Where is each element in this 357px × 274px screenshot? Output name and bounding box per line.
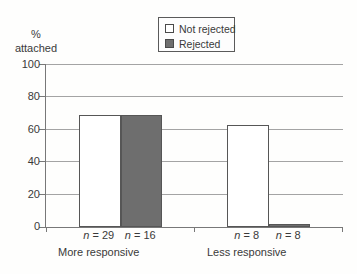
x-tick-mark-0 xyxy=(46,227,47,232)
plot-area xyxy=(45,65,343,228)
n-label-rejected-more-responsive: n = 16 xyxy=(114,229,166,241)
n-label-rejected-less-responsive: n = 8 xyxy=(262,229,314,241)
gridline-100 xyxy=(46,64,343,65)
gridline-80 xyxy=(46,96,343,97)
y-tick-label-100: 100 xyxy=(6,58,40,70)
legend-item-not-rejected: Not rejected xyxy=(165,21,234,36)
y-tick-label-60: 60 xyxy=(6,123,40,135)
y-axis-title-line2: attached xyxy=(8,41,64,55)
category-label-more-responsive: More responsive xyxy=(34,246,164,258)
bar-rejected-less-responsive xyxy=(269,224,311,227)
y-tick-label-20: 20 xyxy=(6,188,40,200)
legend-swatch-not-rejected xyxy=(165,24,174,33)
y-tick-mark-40 xyxy=(39,161,46,162)
y-axis-title-line1: % xyxy=(8,27,64,41)
bar-chart-figure: % attached Not rejectedRejected 02040608… xyxy=(0,0,357,274)
y-tick-label-0: 0 xyxy=(6,220,40,232)
category-label-less-responsive: Less responsive xyxy=(182,246,312,258)
legend: Not rejectedRejected xyxy=(158,17,235,52)
legend-label-rejected: Rejected xyxy=(179,38,220,50)
y-tick-label-80: 80 xyxy=(6,90,40,102)
y-tick-mark-60 xyxy=(39,129,46,130)
y-tick-label-40: 40 xyxy=(6,155,40,167)
y-tick-mark-20 xyxy=(39,194,46,195)
bar-not-rejected-less-responsive xyxy=(227,125,269,227)
y-tick-mark-100 xyxy=(39,64,46,65)
y-tick-mark-0 xyxy=(39,227,46,228)
legend-label-not-rejected: Not rejected xyxy=(179,23,236,35)
bar-not-rejected-more-responsive xyxy=(79,115,121,227)
legend-item-rejected: Rejected xyxy=(165,36,234,51)
x-tick-mark-1 xyxy=(194,227,195,232)
y-tick-mark-80 xyxy=(39,96,46,97)
y-axis-title: % attached xyxy=(8,27,64,55)
bar-rejected-more-responsive xyxy=(121,115,163,227)
x-tick-mark-2 xyxy=(342,227,343,232)
legend-swatch-rejected xyxy=(165,39,174,48)
